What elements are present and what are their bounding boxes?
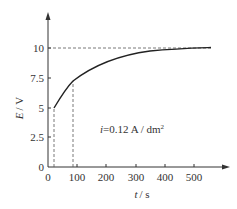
current-density-annotation: i=0.12 A / dm2	[100, 123, 165, 135]
x-tick-label: 0	[45, 171, 51, 183]
y-tick-label: 10	[33, 42, 45, 54]
data-line	[54, 48, 211, 109]
x-tick-label: 500	[186, 171, 203, 183]
x-tick-label: 300	[128, 171, 145, 183]
y-axis-arrow-icon	[46, 12, 51, 20]
y-tick-label: 0	[39, 161, 45, 173]
y-axis-label: E/ V	[13, 97, 25, 120]
x-axis-label: t/ s	[134, 188, 149, 200]
x-tick-label: 400	[157, 171, 174, 183]
y-tick-label: 5	[39, 102, 45, 114]
y-tick-label: 2.5	[30, 131, 44, 143]
x-tick-label: 100	[69, 171, 86, 183]
x-axis-arrow-icon	[222, 165, 230, 170]
x-tick-label: 200	[98, 171, 115, 183]
y-tick-label: 7.5	[30, 72, 44, 84]
chart: 0 2.5 5 7.5 10 0 100 200 300 400 500 t/ …	[0, 0, 237, 209]
